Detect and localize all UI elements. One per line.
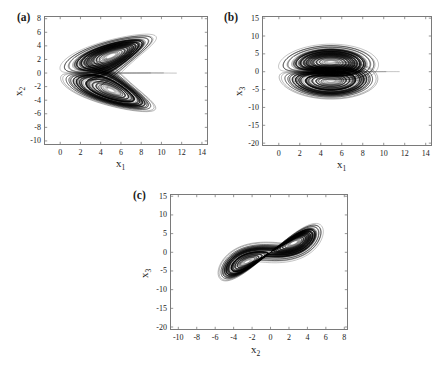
ytick-label: 4 — [19, 41, 41, 50]
attractor-trace-c — [218, 223, 323, 280]
panel-c-xaxis-label: x2 — [251, 343, 260, 358]
xtick-label: 8 — [130, 148, 152, 157]
ytick-label: 10 — [145, 210, 167, 219]
xtick-label: 8 — [333, 333, 355, 342]
xtick-label: 6 — [110, 148, 132, 157]
ytick-label: 15 — [145, 192, 167, 201]
ytick-label: -10 — [145, 285, 167, 294]
xtick-label: 8 — [352, 149, 374, 158]
ytick-label: 5 — [237, 49, 259, 58]
xtick-label: 2 — [289, 149, 311, 158]
xtick-label: 10 — [373, 149, 395, 158]
ytick-label: -15 — [145, 304, 167, 313]
xtick-label: 14 — [415, 149, 437, 158]
ytick-label: -5 — [145, 266, 167, 275]
ytick-label: 10 — [237, 32, 259, 41]
ytick-label: 2 — [19, 55, 41, 64]
ytick-label: -6 — [19, 109, 41, 118]
xtick-label: 6 — [331, 149, 353, 158]
ytick-label: -20 — [237, 139, 259, 148]
ytick-label: 0 — [237, 67, 259, 76]
xtick-label: 12 — [171, 148, 193, 157]
ytick-label: -20 — [145, 323, 167, 332]
xtick-label: 12 — [394, 149, 416, 158]
ytick-label: 15 — [237, 14, 259, 23]
xtick-label: 14 — [191, 148, 213, 157]
ytick-label: 0 — [19, 69, 41, 78]
xtick-label: 4 — [90, 148, 112, 157]
ytick-label: -10 — [19, 136, 41, 145]
ytick-label: -2 — [19, 82, 41, 91]
ytick-label: -10 — [237, 103, 259, 112]
ytick-label: -15 — [237, 121, 259, 130]
ytick-label: -8 — [19, 123, 41, 132]
ytick-label: 0 — [145, 248, 167, 257]
xtick-label: 4 — [310, 149, 332, 158]
ytick-label: -4 — [19, 96, 41, 105]
xtick-label: 0 — [49, 148, 71, 157]
ytick-label: 8 — [19, 14, 41, 23]
ytick-label: 6 — [19, 28, 41, 37]
xtick-label: 0 — [268, 149, 290, 158]
xtick-label: 10 — [150, 148, 172, 157]
attractor-plot-c — [0, 0, 448, 367]
ytick-label: 5 — [145, 229, 167, 238]
xtick-label: 2 — [69, 148, 91, 157]
ytick-label: -5 — [237, 85, 259, 94]
